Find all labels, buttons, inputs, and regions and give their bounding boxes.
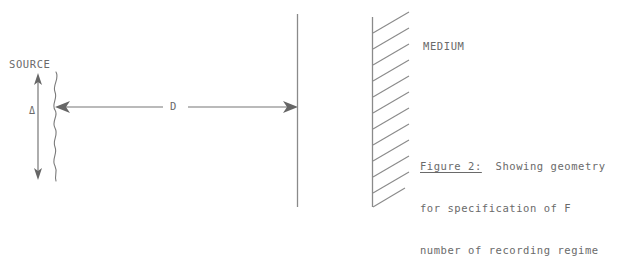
caption-line-1-rest: Showing geometry xyxy=(482,160,606,172)
caption-line-3: number of recording regime xyxy=(420,243,606,257)
distance-label: D xyxy=(170,100,176,112)
source-label: SOURCE xyxy=(9,58,51,70)
source-extent-arrow xyxy=(34,73,42,180)
caption-line-2: for specification of F xyxy=(420,201,606,215)
figure-caption: Figure 2: Showing geometry for specifica… xyxy=(420,131,606,260)
source-wavy-line xyxy=(54,72,57,181)
medium-hatching xyxy=(373,12,409,207)
distance-arrow-right xyxy=(188,101,298,113)
aperture-size-label: Δ xyxy=(29,105,35,116)
caption-line-1: Figure 2: Showing geometry xyxy=(420,159,606,173)
medium-label: MEDIUM xyxy=(423,40,465,52)
caption-title: Figure 2: xyxy=(420,160,482,172)
distance-arrow-left xyxy=(55,101,163,113)
